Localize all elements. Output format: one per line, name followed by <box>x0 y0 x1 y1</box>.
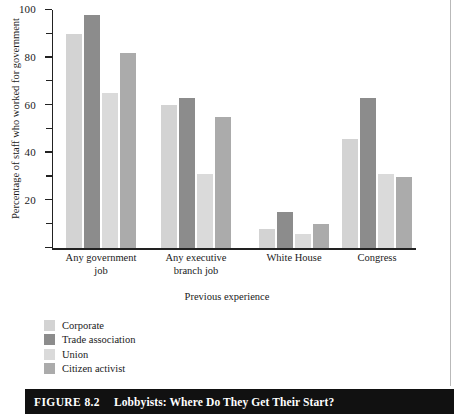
x-category-label: Any government job <box>46 252 156 277</box>
bar <box>102 93 118 248</box>
bar <box>66 34 82 248</box>
y-tick-label-40: 40 <box>25 146 36 158</box>
bar <box>360 98 376 248</box>
chart-legend: CorporateTrade associationUnionCitizen a… <box>44 318 135 376</box>
y-axis-title: Percentage of staff who worked for gover… <box>10 0 21 238</box>
bar-group <box>161 10 231 248</box>
legend-swatch-icon <box>44 363 55 374</box>
bar-group <box>66 10 136 248</box>
y-tick-minor-10 <box>46 223 52 224</box>
y-tick-minor-30 <box>46 175 52 176</box>
y-tick-label-100: 100 <box>19 3 36 15</box>
bar <box>215 117 231 248</box>
figure-caption-number: FIGURE 8.2 <box>34 396 100 408</box>
legend-item: Union <box>44 347 135 361</box>
y-tick-minor-90 <box>46 33 52 34</box>
x-category-label: Any executive branch job <box>141 252 251 277</box>
y-tick-100: 100 <box>45 9 52 10</box>
y-tick-minor-70 <box>46 80 52 81</box>
bar <box>295 234 311 248</box>
bar <box>179 98 195 248</box>
bar <box>161 105 177 248</box>
plot-area: 20406080100 <box>52 10 416 248</box>
legend-item: Trade association <box>44 333 135 347</box>
y-tick-80: 80 <box>45 56 52 57</box>
x-axis-title: Previous experience <box>0 291 454 302</box>
figure-container: 20406080100 Any government jobAny execut… <box>0 0 454 419</box>
figure-caption-title: Lobbyists: Where Do They Get Their Start… <box>114 396 334 408</box>
x-category-label: Congress <box>322 252 432 265</box>
bar <box>277 212 293 248</box>
y-axis-line <box>52 10 53 249</box>
bar-group <box>342 10 412 248</box>
legend-swatch-icon <box>44 349 55 360</box>
legend-label: Citizen activist <box>62 363 125 374</box>
legend-item: Corporate <box>44 318 135 332</box>
bar <box>396 177 412 248</box>
bar <box>313 224 329 248</box>
y-tick-0 <box>45 247 52 248</box>
y-tick-minor-50 <box>46 128 52 129</box>
y-tick-20: 20 <box>45 199 52 200</box>
legend-swatch-icon <box>44 334 55 345</box>
y-tick-40: 40 <box>45 151 52 152</box>
legend-swatch-icon <box>44 320 55 331</box>
y-tick-label-60: 60 <box>25 99 36 111</box>
legend-label: Union <box>62 349 88 360</box>
bar <box>197 174 213 248</box>
y-tick-60: 60 <box>45 104 52 105</box>
bar-group <box>259 10 329 248</box>
x-axis-line <box>52 248 416 250</box>
y-tick-label-20: 20 <box>25 194 36 206</box>
figure-caption-bar: FIGURE 8.2 Lobbyists: Where Do They Get … <box>25 389 454 414</box>
bar <box>342 139 358 248</box>
bar <box>378 174 394 248</box>
legend-label: Trade association <box>62 334 135 345</box>
legend-item: Citizen activist <box>44 362 135 376</box>
bar <box>120 53 136 248</box>
bar <box>259 229 275 248</box>
bar <box>84 15 100 248</box>
page-rule-right <box>450 0 451 386</box>
legend-label: Corporate <box>62 320 104 331</box>
y-tick-label-80: 80 <box>25 51 36 63</box>
